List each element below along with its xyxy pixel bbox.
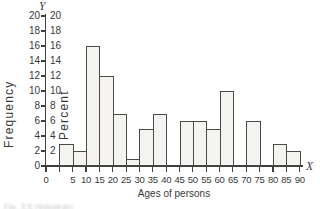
y-tick-label-percent: 4 bbox=[50, 130, 74, 142]
y-tick-label-frequency: 0 bbox=[16, 160, 40, 172]
y-tick-label-frequency: 8 bbox=[16, 100, 40, 112]
x-tick-mark bbox=[139, 167, 140, 172]
x-axis-title: Ages of persons bbox=[138, 188, 210, 199]
y-tick-mark bbox=[41, 60, 46, 61]
x-tick-mark bbox=[299, 167, 300, 172]
histogram-bar-50-55 bbox=[193, 121, 207, 166]
y-tick-mark bbox=[41, 15, 46, 16]
histogram-bar-30-35 bbox=[139, 129, 153, 167]
y-tick-label-percent: 6 bbox=[50, 115, 74, 127]
y-tick-label-frequency: 14 bbox=[16, 55, 40, 67]
x-tick-mark bbox=[85, 167, 86, 172]
x-tick-label: 0 bbox=[35, 174, 57, 185]
x-tick-mark bbox=[99, 167, 100, 172]
x-tick-label: 90 bbox=[289, 174, 311, 185]
y-tick-label-frequency: 6 bbox=[16, 115, 40, 127]
histogram-bar-85-90 bbox=[286, 151, 300, 166]
histogram-bar-70-75 bbox=[246, 121, 260, 166]
histogram-figure: Y X Frequency Percent 022446688101012121… bbox=[0, 0, 320, 209]
histogram-bar-60-65 bbox=[220, 91, 234, 166]
y-tick-label-percent: 20 bbox=[50, 10, 74, 22]
x-tick-mark bbox=[219, 167, 220, 172]
y-tick-mark bbox=[41, 135, 46, 136]
y-tick-label-frequency: 2 bbox=[16, 145, 40, 157]
histogram-bar-15-20 bbox=[99, 76, 113, 166]
x-tick-mark bbox=[72, 167, 73, 172]
y-tick-mark bbox=[41, 150, 46, 151]
y-tick-label-percent: 18 bbox=[50, 25, 74, 37]
x-axis-end-label: X bbox=[306, 160, 313, 172]
y-tick-label-percent: 14 bbox=[50, 55, 74, 67]
y-tick-mark bbox=[41, 105, 46, 106]
figure-caption: Fig. 3.5 Histogram bbox=[4, 202, 73, 209]
y-tick-mark bbox=[41, 30, 46, 31]
x-tick-mark bbox=[45, 167, 46, 172]
x-tick-mark bbox=[166, 167, 167, 172]
y-tick-label-percent: 8 bbox=[50, 100, 74, 112]
x-tick-mark bbox=[232, 167, 233, 172]
y-tick-label-percent: 10 bbox=[50, 85, 74, 97]
y-tick-label-percent: 16 bbox=[50, 40, 74, 52]
x-tick-mark bbox=[286, 167, 287, 172]
histogram-bar-35-40 bbox=[153, 114, 167, 167]
y-tick-label-percent: 12 bbox=[50, 70, 74, 82]
x-tick-mark bbox=[246, 167, 247, 172]
x-tick-mark bbox=[152, 167, 153, 172]
y-tick-label-frequency: 18 bbox=[16, 25, 40, 37]
histogram-bar-80-85 bbox=[273, 144, 287, 167]
y-tick-mark bbox=[41, 120, 46, 121]
x-tick-mark bbox=[59, 167, 60, 172]
histogram-bar-10-15 bbox=[86, 46, 100, 166]
histogram-bar-55-60 bbox=[206, 129, 220, 167]
y-tick-mark bbox=[41, 45, 46, 46]
y-tick-label-frequency: 20 bbox=[16, 10, 40, 22]
x-tick-mark bbox=[272, 167, 273, 172]
y-tick-mark bbox=[41, 90, 46, 91]
histogram-bar-20-25 bbox=[113, 114, 127, 167]
x-tick-mark bbox=[206, 167, 207, 172]
frequency-axis-label: Frequency bbox=[2, 81, 16, 149]
x-tick-mark bbox=[112, 167, 113, 172]
y-tick-label-frequency: 12 bbox=[16, 70, 40, 82]
y-tick-label-frequency: 4 bbox=[16, 130, 40, 142]
histogram-bar-25-30 bbox=[126, 159, 140, 167]
y-tick-mark bbox=[41, 75, 46, 76]
y-tick-label-frequency: 10 bbox=[16, 85, 40, 97]
x-tick-mark bbox=[192, 167, 193, 172]
y-tick-label-percent: 2 bbox=[50, 145, 74, 157]
x-tick-mark bbox=[126, 167, 127, 172]
x-tick-mark bbox=[259, 167, 260, 172]
y-tick-label-frequency: 16 bbox=[16, 40, 40, 52]
histogram-bar-5-10 bbox=[73, 151, 87, 166]
histogram-bar-45-50 bbox=[180, 121, 194, 166]
x-tick-mark bbox=[179, 167, 180, 172]
